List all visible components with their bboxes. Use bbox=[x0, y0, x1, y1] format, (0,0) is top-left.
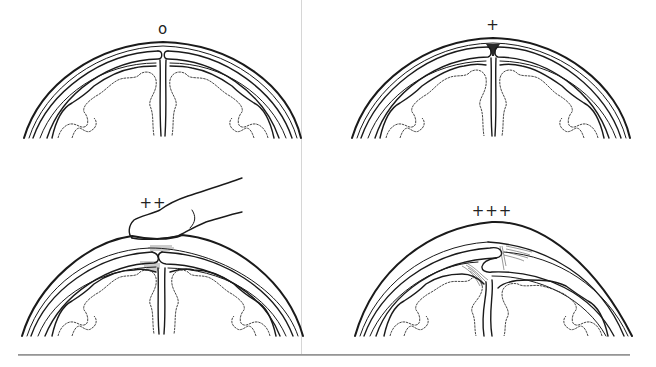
skull-section-diagram bbox=[328, 170, 656, 355]
panel-divider-vertical bbox=[301, 0, 302, 356]
skull-section-diagram bbox=[0, 0, 301, 175]
panel-grade-3: +++ bbox=[328, 170, 656, 355]
skull-section-diagram bbox=[0, 170, 301, 355]
panel-grade-2: ++ bbox=[0, 170, 301, 355]
finger-icon bbox=[129, 178, 242, 239]
panel-grade-0: o bbox=[0, 0, 301, 175]
panel-grade-1: + bbox=[328, 0, 656, 175]
skull-section-diagram bbox=[328, 0, 656, 175]
skull-section-figure: o + bbox=[0, 0, 656, 367]
